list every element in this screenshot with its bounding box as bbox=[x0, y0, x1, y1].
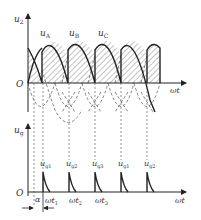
alpha-label: α bbox=[35, 195, 41, 204]
lower-y-axis-label: ug bbox=[14, 125, 24, 137]
projection-lines bbox=[34, 83, 147, 205]
lower-x-axis-label: ωt bbox=[175, 196, 186, 205]
gate-pulses bbox=[43, 172, 154, 192]
thyristor-waveform-diagram: u2 O ωt uA uB uC ug O ωt ug1 ug2 ug3 bbox=[0, 0, 201, 220]
lower-origin-label: O bbox=[16, 188, 24, 198]
phase-label-c: uC bbox=[98, 28, 109, 39]
upper-plot: u2 O ωt uA uB uC bbox=[14, 14, 186, 123]
pulse-label-g2: ug2 bbox=[66, 159, 78, 170]
upper-x-axis-label: ωt bbox=[170, 86, 181, 95]
time-label-wt1: ωt1 bbox=[45, 196, 58, 206]
pulse-label-g1: ug1 bbox=[40, 159, 52, 170]
upper-origin-label: O bbox=[16, 79, 24, 89]
pulse-label-g1-second: ug1 bbox=[118, 159, 130, 170]
phase-label-b: uB bbox=[69, 28, 80, 39]
pulse-label-g2-second: ug2 bbox=[144, 159, 156, 170]
pulse-label-g3: ug3 bbox=[92, 159, 104, 170]
rectified-output-area bbox=[28, 41, 160, 83]
time-label-wt2: ωt2 bbox=[69, 196, 82, 206]
phase-label-a: uA bbox=[40, 28, 51, 39]
lower-plot: ug O ωt ug1 ug2 ug3 ug1 ug2 ωt1 ωt2 ωt3 … bbox=[14, 124, 186, 212]
time-label-wt3: ωt3 bbox=[95, 196, 108, 206]
upper-y-axis-label: u2 bbox=[14, 14, 24, 25]
